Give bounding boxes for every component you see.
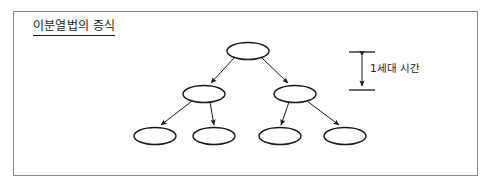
generation-time-label: 1세대 시간 (370, 62, 420, 75)
figure-root: 이분열법의 증식 (0, 0, 494, 189)
cell-node-root (227, 43, 269, 60)
cell-node-grandchild-1 (134, 128, 176, 145)
generation-1-cells (183, 86, 316, 103)
edge-right-child-to-third-grandchild (281, 102, 289, 125)
edge-left-child-to-second-grandchild (210, 102, 214, 125)
edge-root-to-right-child (262, 58, 288, 83)
cell-node-right-child (274, 86, 316, 103)
generation-2-cells (134, 128, 366, 145)
cell-node-grandchild-2 (193, 128, 235, 145)
edge-root-to-left-child (211, 58, 234, 83)
cell-node-grandchild-3 (259, 128, 301, 145)
generation-0-cells (227, 43, 269, 60)
cell-node-grandchild-4 (324, 128, 366, 145)
cell-node-left-child (183, 86, 225, 103)
edge-left-child-to-first-grandchild (161, 101, 192, 125)
edge-right-child-to-fourth-grandchild (307, 101, 339, 125)
binary-fission-diagram (0, 0, 494, 189)
